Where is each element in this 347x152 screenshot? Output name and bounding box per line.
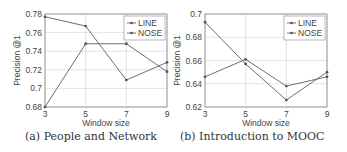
data-point	[44, 106, 47, 109]
data-point	[285, 99, 288, 102]
y-tick-label: 0.68	[25, 102, 42, 112]
data-point	[204, 21, 207, 24]
data-point	[244, 58, 247, 61]
caption-introduction-to-mooc: (b) Introduction to MOOC	[180, 130, 325, 143]
data-point	[285, 85, 288, 88]
data-point	[125, 42, 128, 45]
caption-people-and-network: (a) People and Network	[25, 130, 157, 143]
y-tick-label: 0.76	[25, 28, 42, 38]
y-tick-label: 0.74	[25, 46, 42, 56]
data-point	[125, 79, 128, 82]
y-tick-label: 0.7	[190, 9, 202, 19]
data-point	[204, 75, 207, 78]
y-tick-label: 0.72	[25, 65, 42, 75]
chart-people-and-network: 0.680.70.720.740.760.783579Window sizePr…	[0, 0, 173, 128]
y-tick-label: 0.66	[185, 56, 202, 66]
y-tick-label: 0.78	[25, 9, 42, 19]
y-tick-label: 0.62	[185, 102, 202, 112]
data-point	[326, 75, 329, 78]
x-tick-label: 3	[43, 109, 48, 119]
data-point	[84, 42, 87, 45]
chart-introduction-to-mooc: 0.620.640.660.680.73579Window sizePrecis…	[160, 0, 333, 128]
data-point	[244, 63, 247, 66]
y-axis-label: Precision @1	[172, 35, 182, 86]
legend-label: NOSE	[138, 28, 162, 38]
x-tick-label: 3	[203, 109, 208, 119]
data-point	[44, 15, 47, 18]
chart-svg: 0.680.70.720.740.760.783579Window sizePr…	[0, 0, 173, 128]
legend-label: LINE	[298, 18, 317, 28]
x-axis-label: Window size	[82, 118, 130, 128]
legend-label: NOSE	[298, 28, 322, 38]
data-point	[84, 25, 87, 28]
series-line	[204, 58, 329, 88]
y-tick-label: 0.68	[185, 32, 202, 42]
y-tick-label: 0.64	[185, 79, 202, 89]
y-tick-label: 0.7	[30, 83, 42, 93]
x-tick-label: 9	[325, 109, 330, 119]
legend: LINENOSE	[284, 16, 325, 40]
y-axis-label: Precision @1	[12, 35, 22, 86]
data-point	[326, 71, 329, 74]
x-axis-label: Window size	[242, 118, 290, 128]
legend: LINENOSE	[124, 16, 165, 40]
legend-label: LINE	[138, 18, 157, 28]
chart-svg: 0.620.640.660.680.73579Window sizePrecis…	[160, 0, 333, 128]
